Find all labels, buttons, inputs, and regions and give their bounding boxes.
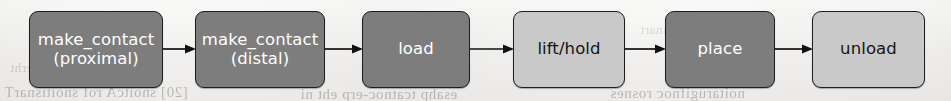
pipeline-flow-diagram: [20] snoitcA rof snoitisnarT esahp tcatn… — [0, 0, 951, 101]
flow-node-sublabel: (distal) — [202, 50, 319, 68]
flow-node-sublabel: (proximal) — [38, 50, 155, 68]
flow-arrow-icon — [163, 42, 196, 56]
flow-arrow-icon — [325, 42, 363, 56]
flow-node-label: make_contact — [202, 31, 319, 49]
flow-node-label: load — [398, 40, 434, 58]
scan-bleed-text: esahp tcatnoc-erp eht ni — [300, 86, 457, 101]
flow-node-make-contact-proximal: make_contact (proximal) — [29, 11, 163, 88]
flow-node-label: unload — [840, 40, 897, 58]
flow-node-label: make_contact — [38, 31, 155, 49]
flow-node-lift-hold: lift/hold — [513, 11, 625, 88]
flow-node-make-contact-distal: make_contact (distal) — [195, 11, 325, 88]
flow-node-label: place — [698, 40, 743, 58]
flow-node-load: load — [362, 11, 470, 88]
flow-arrow-icon — [775, 42, 813, 56]
flow-node-unload: unload — [812, 11, 925, 88]
flow-arrow-icon — [470, 42, 514, 56]
flow-node-place: place — [665, 11, 775, 88]
flow-arrow-icon — [625, 42, 666, 56]
flow-node-label: lift/hold — [537, 40, 600, 58]
